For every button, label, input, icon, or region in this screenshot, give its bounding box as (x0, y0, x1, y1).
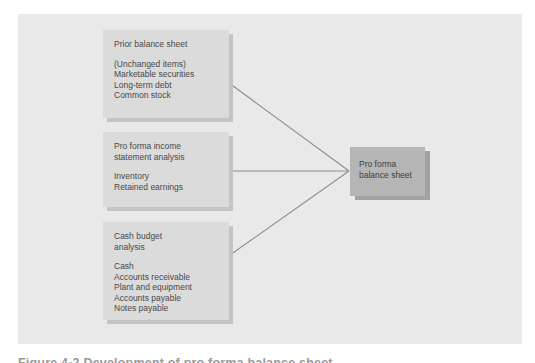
node-title: Pro forma income statement analysis (114, 141, 218, 162)
node-title: Pro forma balance sheet (359, 159, 425, 181)
node-title: Cash budget analysis (114, 231, 218, 252)
node-cash-budget-analysis: Cash budget analysis Cash Accounts recei… (103, 222, 229, 320)
list-item: Inventory (114, 171, 218, 182)
figure-canvas (18, 14, 522, 344)
list-item: Common stock (114, 90, 218, 101)
list-item: Long-term debt (114, 80, 218, 91)
list-item: Plant and equipment (114, 282, 218, 293)
node-prior-balance-sheet: Prior balance sheet (Unchanged items) Ma… (103, 30, 229, 118)
list-item: Accounts receivable (114, 272, 218, 283)
list-item: Notes payable (114, 303, 218, 314)
node-pro-forma-balance-sheet: Pro forma balance sheet (350, 147, 425, 196)
node-items: (Unchanged items) Marketable securities … (114, 59, 218, 101)
list-item: Retained earnings (114, 182, 218, 193)
list-item: (Unchanged items) (114, 59, 218, 70)
node-items: Inventory Retained earnings (114, 171, 218, 192)
node-title: Prior balance sheet (114, 39, 218, 50)
node-pro-forma-income-statement-analysis: Pro forma income statement analysis Inve… (103, 132, 229, 207)
node-items: Cash Accounts receivable Plant and equip… (114, 261, 218, 314)
list-item: Marketable securities (114, 69, 218, 80)
list-item: Accounts payable (114, 293, 218, 304)
list-item: Cash (114, 261, 218, 272)
figure-caption: Figure 4-2 Development of pro forma bala… (18, 356, 518, 363)
